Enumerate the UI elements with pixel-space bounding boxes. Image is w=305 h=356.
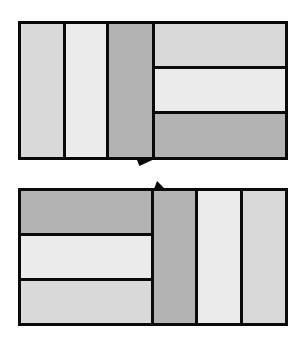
top-horizontal-strip-3 — [155, 114, 285, 157]
bottom-horizontal-strip-3 — [21, 281, 151, 323]
top-vertical-strip-1 — [21, 24, 63, 157]
top-hinge-notch — [135, 159, 154, 166]
top-horizontal-strip-2 — [155, 69, 285, 111]
top-horizontal-strip-1 — [155, 24, 285, 66]
bottom-vertical-strip-3 — [243, 191, 285, 323]
top-vertical-strip-3 — [109, 24, 152, 157]
bottom-vertical-strip-1 — [154, 191, 195, 323]
bottom-horizontal-strip-1 — [21, 191, 151, 233]
top-vertical-strip-2 — [66, 24, 106, 157]
bottom-horizontal-strip-2 — [21, 236, 151, 278]
bottom-vertical-strip-2 — [198, 191, 240, 323]
bottom-panel — [18, 188, 288, 326]
top-panel — [18, 21, 288, 160]
